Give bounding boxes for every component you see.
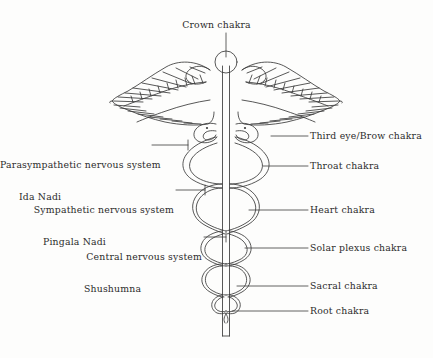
label-crown-chakra: Crown chakra bbox=[0, 20, 433, 31]
left-wing-covert-feathers bbox=[131, 75, 203, 102]
snake-left-loop-5-inner bbox=[215, 297, 226, 312]
label-sacral-chakra: Sacral chakra bbox=[310, 281, 378, 292]
label-central-line1: Central nervous system bbox=[74, 252, 202, 263]
right-wing bbox=[238, 62, 342, 125]
left-wing bbox=[110, 62, 214, 125]
left-wing-primary-feathers bbox=[113, 67, 205, 124]
snake-right-loop-2-outer bbox=[196, 188, 226, 231]
snake-left-eye bbox=[206, 127, 208, 129]
snake-left-loop-2-inner bbox=[227, 184, 259, 234]
right-wing-covert-arc2 bbox=[242, 100, 315, 122]
label-solar-plexus-chakra: Solar plexus chakra bbox=[310, 243, 407, 254]
snake-right-eye bbox=[244, 127, 246, 129]
label-heart-chakra: Heart chakra bbox=[310, 205, 375, 216]
snake-right-pingala bbox=[193, 123, 269, 323]
label-third-eye-brow-chakra: Third eye/Brow chakra bbox=[310, 131, 422, 142]
label-sympathetic-line1: Sympathetic nervous system bbox=[26, 205, 174, 216]
snake-left-loop-1-inner bbox=[190, 143, 222, 184]
snake-right-loop-1-inner bbox=[230, 143, 262, 184]
label-parasympathetic-line1: Parasympathetic nervous system bbox=[0, 160, 150, 171]
snake-left-loop-2-outer bbox=[226, 188, 256, 231]
right-wing-covert-feathers bbox=[249, 75, 321, 102]
right-wing-tip bbox=[340, 101, 342, 103]
snake-right-loop-2-inner bbox=[193, 184, 225, 234]
left-wing-tip bbox=[110, 101, 112, 103]
label-central-nervous-system: Central nervous system Shushumna bbox=[74, 231, 202, 316]
snake-right-loop-5-inner bbox=[226, 297, 237, 312]
label-throat-chakra: Throat chakra bbox=[310, 161, 379, 172]
right-wing-primary-feathers bbox=[247, 67, 339, 124]
diagram-page: Crown chakra Parasympathetic nervous sys… bbox=[0, 0, 433, 358]
label-central-line2: Shushumna bbox=[84, 284, 202, 295]
left-wing-covert-arc2 bbox=[137, 100, 210, 122]
label-root-chakra: Root chakra bbox=[310, 306, 369, 317]
